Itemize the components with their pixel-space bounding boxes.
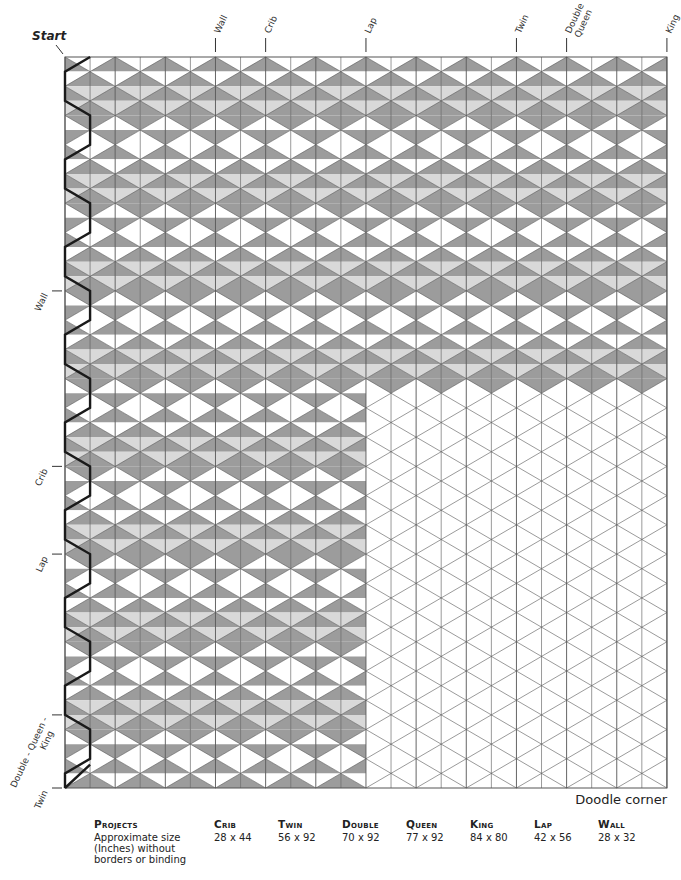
left-marker-label-line: Double - Queen - [8, 716, 49, 790]
top-marker-label: DoubleQueen [563, 1, 595, 39]
top-marker-label-line: Twin [513, 13, 531, 36]
col-wall: Wall [598, 818, 662, 832]
start-tick [56, 45, 63, 54]
top-marker-label: Twin [513, 13, 531, 36]
size-wall: 28 x 32 [598, 832, 662, 865]
top-marker-label: King [664, 13, 681, 35]
left-marker-label: Twin [32, 789, 50, 810]
size-double: 70 x 92 [342, 832, 406, 865]
size-twin: 56 x 92 [278, 832, 342, 865]
top-marker-label-line: Wall [212, 14, 229, 35]
doodle-corner-label: Doodle corner [575, 792, 667, 807]
left-marker-label-line: Crib [33, 467, 50, 488]
size-king: 84 x 80 [470, 832, 534, 865]
left-marker-label: Double - Queen -King [8, 716, 59, 794]
size-queen: 77 x 92 [406, 832, 470, 865]
col-twin: Twin [278, 818, 342, 832]
col-lap: Lap [534, 818, 598, 832]
col-queen: Queen [406, 818, 470, 832]
top-marker-label: Crib [262, 14, 279, 35]
size-crib: 28 x 44 [214, 832, 278, 865]
top-marker-label: Wall [212, 14, 229, 35]
left-marker-label: Crib [33, 467, 50, 488]
start-label: Start [32, 29, 67, 43]
left-marker-label-line: Lap [34, 554, 50, 573]
top-marker-label-line: Lap [363, 16, 379, 35]
size-lap: 42 x 56 [534, 832, 598, 865]
top-marker-label-line: Crib [262, 14, 279, 35]
left-marker-label: Wall [33, 292, 50, 313]
projects-header: Projects [94, 818, 214, 832]
top-marker-label: Lap [363, 16, 379, 35]
col-king: King [470, 818, 534, 832]
projects-size-row: Approximate size (Inches) without border… [94, 832, 662, 865]
col-double: Double [342, 818, 406, 832]
projects-header-row: Projects Crib Twin Double Queen King Lap… [94, 818, 662, 832]
left-marker-label: Lap [34, 554, 50, 573]
quilt-layout-diagram: WallCribLapTwinDoubleQueenKingWallCribLa… [0, 0, 681, 810]
top-marker-label-line: King [664, 13, 681, 35]
left-marker-label-line: Wall [33, 292, 50, 313]
size-row-label: Approximate size (Inches) without border… [94, 832, 214, 865]
projects-table: Projects Crib Twin Double Queen King Lap… [94, 818, 662, 865]
left-marker-label-line: Twin [32, 789, 50, 810]
col-crib: Crib [214, 818, 278, 832]
